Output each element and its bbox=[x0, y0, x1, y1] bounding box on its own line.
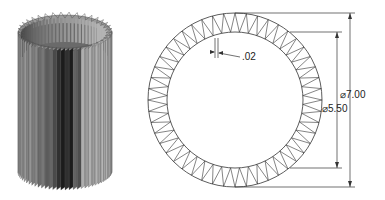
dimension-lines bbox=[210, 13, 355, 187]
corrugated-ring-top-view bbox=[148, 13, 322, 187]
technical-drawing: .02 ⌀7.00 ⌀5.50 bbox=[0, 0, 385, 200]
arrowheads bbox=[210, 13, 352, 187]
inner-diameter-label: ⌀5.50 bbox=[322, 103, 348, 114]
thickness-label: .02 bbox=[242, 51, 256, 62]
isometric-cylinder bbox=[18, 12, 112, 190]
outer-diameter-label: ⌀7.00 bbox=[340, 89, 366, 100]
